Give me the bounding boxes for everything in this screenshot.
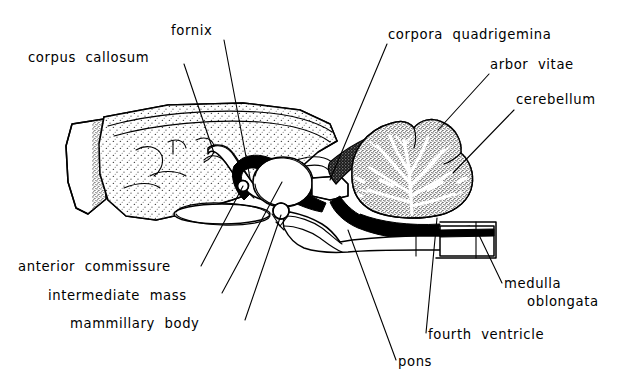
label-corpora-quadrigemina: corpora quadrigemina (388, 27, 551, 42)
anatomy-illustration (66, 100, 496, 258)
cerebellum (345, 112, 485, 227)
label-arbor-vitae: arbor vitae (490, 57, 574, 72)
sagittal-brain-figure: fornixcorpus callosumcorpora quadrigemin… (0, 0, 625, 385)
label-fornix: fornix (171, 23, 212, 38)
label-cerebellum: cerebellum (516, 92, 596, 107)
leader-mammillary-body (245, 215, 281, 320)
optic-chiasm (174, 203, 270, 225)
intermediate-mass (253, 157, 313, 207)
label-oblongata: oblongata (527, 294, 599, 309)
label-mammillary-body: mammillary body (70, 316, 200, 331)
label-medulla: medulla (504, 276, 561, 291)
leader-cerebellum (453, 110, 514, 173)
label-pons: pons (398, 354, 432, 369)
label-intermediate-mass: intermediate mass (48, 288, 187, 303)
label-corpus-callosum: corpus callosum (28, 50, 149, 65)
label-anterior-commissure: anterior commissure (18, 259, 171, 274)
label-fourth-ventricle: fourth ventricle (428, 327, 544, 342)
leader-arbor-vitae (438, 74, 489, 130)
brain-diagram: fornixcorpus callosumcorpora quadrigemin… (0, 0, 625, 385)
